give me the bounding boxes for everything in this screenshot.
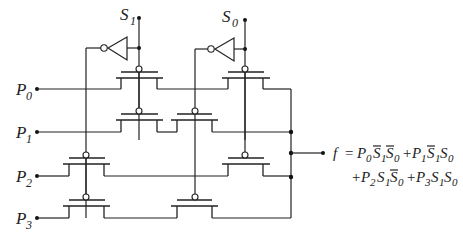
output-equation: f = P0 S1 S0 + P1 S1 S0 + P2 S1 S0 + P3 … — [333, 145, 458, 188]
svg-text:+: + — [402, 145, 412, 161]
svg-text:S: S — [440, 145, 448, 161]
svg-text:0: 0 — [366, 152, 372, 164]
inverter-s0 — [195, 38, 245, 110]
svg-text:f: f — [333, 145, 339, 161]
svg-text:3: 3 — [424, 176, 431, 188]
input-p3: P 3 — [15, 209, 69, 232]
svg-text:S: S — [377, 169, 385, 185]
svg-text:S: S — [373, 145, 381, 161]
label-s0: S 0 — [222, 7, 238, 30]
svg-text:S: S — [390, 169, 398, 185]
tgate-p1 — [116, 108, 177, 132]
tgate-stage2-p3 — [171, 194, 291, 218]
tgate-p3 — [63, 194, 177, 218]
tgate-stage2-p2 — [222, 152, 291, 176]
svg-text:S: S — [386, 145, 394, 161]
svg-text:S: S — [427, 145, 435, 161]
svg-text:2: 2 — [370, 176, 376, 188]
svg-text:P: P — [411, 145, 421, 161]
svg-text:1: 1 — [130, 14, 136, 28]
svg-text:S: S — [431, 169, 439, 185]
svg-text:0: 0 — [232, 16, 238, 30]
input-p2: P 2 — [15, 167, 69, 190]
tgate-p0 — [116, 66, 228, 89]
svg-text:+: + — [351, 169, 361, 185]
mux-diagram: S 1 S 0 P 0 P 1 P 2 — [0, 0, 463, 241]
svg-text:0: 0 — [448, 152, 454, 164]
svg-text:P: P — [15, 123, 26, 142]
inverter-s1 — [86, 37, 139, 218]
svg-text:S: S — [222, 7, 231, 26]
input-p0: P 0 — [15, 80, 121, 103]
tgate-stage2-top-left — [222, 66, 291, 89]
svg-text:0: 0 — [398, 176, 404, 188]
label-s1: S 1 — [120, 5, 136, 28]
svg-text:P: P — [15, 209, 26, 228]
svg-text:2: 2 — [26, 176, 32, 190]
svg-text:P: P — [15, 167, 26, 186]
svg-text:1: 1 — [26, 132, 32, 146]
svg-text:0: 0 — [452, 176, 458, 188]
svg-text:=: = — [344, 145, 354, 161]
output-bus — [289, 89, 325, 218]
svg-text:3: 3 — [25, 218, 32, 232]
svg-text:0: 0 — [26, 89, 32, 103]
svg-text:P: P — [356, 145, 366, 161]
tgate-stage2-mid — [171, 108, 291, 132]
svg-text:+: + — [406, 169, 416, 185]
tgate-p2 — [63, 152, 228, 176]
svg-text:P: P — [15, 80, 26, 99]
svg-text:S: S — [444, 169, 452, 185]
svg-text:1: 1 — [421, 152, 427, 164]
svg-text:S: S — [120, 5, 129, 24]
svg-text:0: 0 — [394, 152, 400, 164]
svg-text:P: P — [360, 169, 370, 185]
circuit-schematic: S 1 S 0 P 0 P 1 P 2 — [0, 0, 463, 241]
svg-text:P: P — [415, 169, 425, 185]
input-p1: P 1 — [15, 123, 121, 146]
